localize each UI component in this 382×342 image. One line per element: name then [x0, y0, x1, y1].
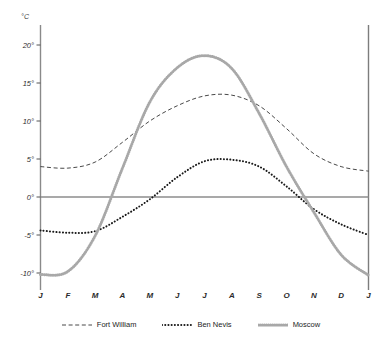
legend-swatch-icon — [62, 322, 92, 328]
x-tick-label: N — [311, 291, 317, 300]
temperature-line-chart: °C 20°15°10°5°0°-5°-10° JFMAMJJASONDJ Fo… — [0, 0, 382, 342]
y-tick-label: 20° — [8, 41, 34, 50]
legend-label: Moscow — [293, 320, 321, 329]
legend-item-moscow[interactable]: Moscow — [258, 320, 321, 329]
x-tick-label: A — [229, 291, 235, 300]
chart-canvas — [0, 0, 382, 342]
legend-item-ben-nevis[interactable]: Ben Nevis — [162, 320, 231, 329]
legend-item-fort-william[interactable]: Fort William — [62, 320, 137, 329]
x-tick-label: J — [202, 291, 206, 300]
y-tick-label: -10° — [8, 269, 34, 278]
x-tick-label: A — [120, 291, 126, 300]
legend-swatch-icon — [162, 322, 192, 328]
chart-legend: Fort WilliamBen NevisMoscow — [0, 320, 382, 329]
legend-label: Fort William — [97, 320, 137, 329]
x-tick-label: M — [92, 291, 99, 300]
y-tick-label: 0° — [8, 193, 34, 202]
y-axis-unit-label: °C — [21, 13, 29, 20]
legend-swatch-icon — [258, 322, 288, 328]
x-tick-label: F — [65, 291, 70, 300]
y-tick-label: -5° — [8, 231, 34, 240]
series-layer — [41, 56, 369, 276]
x-tick-label: J — [366, 291, 370, 300]
x-tick-label: O — [283, 291, 289, 300]
x-tick-label: J — [175, 291, 179, 300]
legend-label: Ben Nevis — [197, 320, 231, 329]
y-tick-label: 15° — [8, 79, 34, 88]
series-line-fort-william — [41, 94, 369, 171]
x-tick-label: M — [146, 291, 153, 300]
x-tick-label: J — [38, 291, 42, 300]
x-tick-label: S — [256, 291, 261, 300]
series-line-moscow — [41, 56, 369, 276]
y-tick-label: 5° — [8, 155, 34, 164]
y-tick-label: 10° — [8, 117, 34, 126]
x-tick-label: D — [338, 291, 344, 300]
